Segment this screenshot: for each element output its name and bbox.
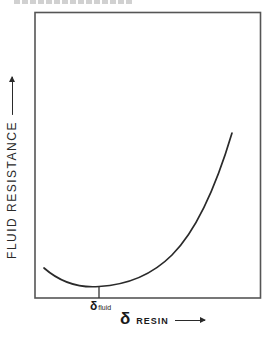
fluid-subscript: fluid [98,304,111,311]
x-axis-label: δ RESIN [120,309,205,329]
delta-symbol: δ [90,299,97,313]
x-axis-label-text: RESIN [136,316,169,326]
fluid-resistance-curve [44,133,232,287]
y-axis-label-text: FLUID RESISTANCE [5,121,19,259]
delta-fluid-label: δfluid [90,299,111,313]
chart-plot-area [0,0,273,338]
chart-frame [35,13,261,299]
x-axis-delta-symbol: δ [120,309,130,329]
arrow-right-icon [175,320,205,321]
arrow-up-icon [12,77,13,115]
y-axis-label: FLUID RESISTANCE [2,50,22,285]
